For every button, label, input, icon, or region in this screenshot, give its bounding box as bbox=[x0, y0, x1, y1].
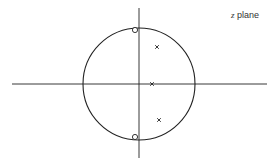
z-plane-diagram bbox=[0, 0, 277, 163]
z-variable: z bbox=[231, 10, 235, 20]
zeros-group bbox=[132, 27, 137, 139]
pole-marker bbox=[157, 118, 161, 122]
z-plane-label: z plane bbox=[231, 10, 259, 20]
zero-marker bbox=[132, 134, 137, 139]
pole-marker bbox=[155, 45, 159, 49]
poles-group bbox=[150, 45, 161, 122]
zero-marker bbox=[132, 27, 137, 32]
plane-word: plane bbox=[237, 10, 259, 20]
